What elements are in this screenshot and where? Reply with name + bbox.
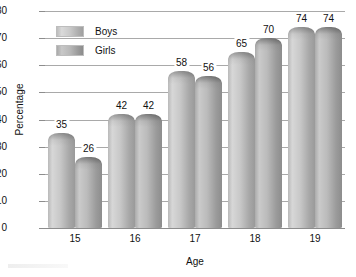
legend-item-boys: Boys [56,24,148,39]
y-axis-tick-mark [39,147,45,148]
bar-rect[interactable]: 74 [315,27,342,228]
bar-chart: Percentage 35264242585665707474 01020304… [0,0,356,277]
bar-girls-18[interactable]: 70 [255,11,282,228]
gridline [45,228,345,229]
y-axis-title: Percentage [14,65,25,155]
x-axis-tick-label: 17 [165,233,225,247]
legend-label-girls: Girls [95,45,116,56]
legend-label-boys: Boys [95,26,117,37]
bar-boys-18[interactable]: 65 [228,11,255,228]
y-axis-tick-label: 50 [0,86,7,97]
bar-rect[interactable]: 70 [255,38,282,228]
legend-swatch-boys-icon [56,26,84,37]
bar-value-label: 56 [201,62,216,74]
bar-value-label: 58 [174,57,189,69]
bar-value-label: 26 [81,143,96,155]
y-axis-tick-mark [39,228,45,229]
y-axis-tick-mark [39,92,45,93]
x-axis-title: Age [44,256,346,267]
bar-rect[interactable]: 26 [75,157,102,228]
x-axis-tick-label: 15 [45,233,105,247]
bar-rect[interactable]: 35 [48,133,75,228]
y-axis-tick-label: 0 [0,222,7,233]
y-axis-tick-label: 20 [0,168,7,179]
bar-boys-19[interactable]: 74 [288,11,315,228]
bar-value-label: 42 [141,100,156,112]
y-axis-tick-mark [39,11,45,12]
x-axis-tick-labels: 1516171819 [45,233,345,247]
x-axis-tick-label: 19 [285,233,345,247]
y-axis-tick-label: 10 [0,195,7,206]
bar-value-label: 42 [114,100,129,112]
bar-rect[interactable]: 56 [195,76,222,228]
bar-group: 5856 [165,11,225,228]
bar-rect[interactable]: 42 [108,114,135,228]
y-axis-tick-mark [39,120,45,121]
bar-girls-19[interactable]: 74 [315,11,342,228]
bar-value-label: 70 [261,24,276,36]
y-axis-tick-mark [39,201,45,202]
legend-swatch-girls-icon [56,45,84,56]
y-axis-tick-label: 40 [0,114,7,125]
bar-value-label: 74 [321,13,336,25]
bar-rect[interactable]: 58 [168,71,195,228]
scan-artifact [8,264,68,268]
bar-rect[interactable]: 42 [135,114,162,228]
legend-item-girls: Girls [56,43,148,58]
bar-value-label: 65 [234,38,249,50]
bar-girls-17[interactable]: 56 [195,11,222,228]
bar-value-label: 74 [294,13,309,25]
x-axis-tick-label: 16 [105,233,165,247]
legend: Boys Girls [56,24,148,62]
bar-group: 7474 [285,11,345,228]
bar-group: 6570 [225,11,285,228]
y-axis-tick-label: 30 [0,141,7,152]
y-axis-tick-label: 70 [0,32,7,43]
y-axis-tick-mark [39,174,45,175]
y-axis-tick-label: 80 [0,5,7,16]
x-axis-tick-label: 18 [225,233,285,247]
y-axis-tick-mark [39,65,45,66]
bar-rect[interactable]: 65 [228,52,255,228]
bar-value-label: 35 [54,119,69,131]
bar-rect[interactable]: 74 [288,27,315,228]
y-axis-tick-label: 60 [0,59,7,70]
bar-boys-17[interactable]: 58 [168,11,195,228]
y-axis-tick-mark [39,38,45,39]
